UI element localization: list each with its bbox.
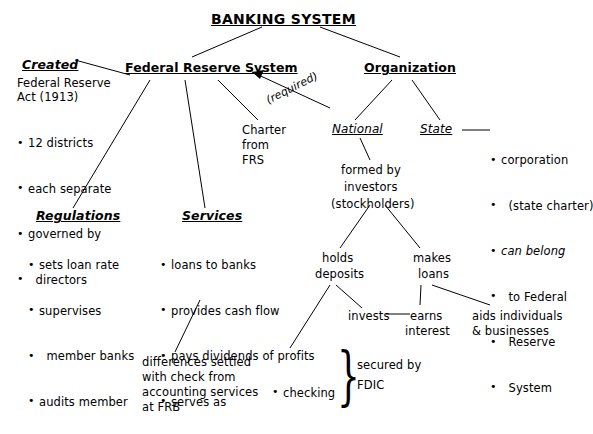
node-formed-line2: investors (344, 180, 398, 195)
node-makes-line2: loans (418, 267, 449, 282)
node-federal-reserve-system: Federal Reserve System (125, 60, 298, 77)
node-formed-line3: (stockholders) (331, 197, 415, 212)
node-national: National (332, 122, 383, 138)
list-item: provides cash flow (160, 304, 315, 319)
node-created-header: Created (22, 57, 78, 74)
list-item: audits member (28, 395, 134, 410)
node-holds-line2: deposits (315, 267, 364, 282)
diagram-canvas: BANKING SYSTEM Federal Reserve System Or… (0, 0, 593, 434)
node-created-line1: Federal Reserve (17, 76, 111, 91)
list-regulations: sets loan rate supervises member banks a… (28, 228, 134, 434)
node-secured-line2: FDIC (357, 378, 384, 393)
curly-brace-icon: } (337, 345, 360, 408)
node-differences-line4: at FRB (142, 400, 180, 415)
node-aids-line2: & businesses (472, 324, 549, 339)
node-earns-line2: interest (405, 324, 450, 339)
node-charter-line2: from (242, 138, 269, 153)
list-item: supervises (28, 304, 134, 319)
node-charter-line1: Charter (242, 123, 286, 138)
list-state: corporation (state charter) can belong t… (490, 123, 593, 426)
node-state: State (420, 122, 452, 138)
node-differences-line2: with check from (142, 370, 236, 385)
list-item-cont: to Federal (490, 290, 593, 305)
node-aids-line1: aids individuals (472, 309, 563, 324)
node-differences-line1: differences settled (142, 355, 251, 370)
list-item: checking (272, 385, 335, 402)
list-item: loans to banks (160, 258, 315, 273)
node-invests: invests (348, 309, 390, 324)
node-regulations-header: Regulations (36, 208, 120, 225)
list-item: sets loan rate (28, 258, 134, 273)
list-item: can belong (490, 244, 593, 259)
node-secured-line1: secured by (357, 358, 421, 373)
list-item: each separate (17, 182, 111, 197)
node-created-line2: Act (1913) (17, 90, 78, 105)
diagram-title: BANKING SYSTEM (211, 10, 356, 28)
node-charter-line3: FRS (242, 153, 264, 168)
node-differences-line3: accounting services (142, 385, 258, 400)
node-organization: Organization (364, 60, 456, 77)
node-earns-line1: earns (410, 309, 442, 324)
list-item: corporation (490, 153, 593, 168)
node-makes-line1: makes (413, 251, 451, 266)
list-deposit-types: checking savings trusts (272, 350, 335, 434)
list-item-cont: (state charter) (490, 199, 593, 214)
list-item: 12 districts (17, 136, 111, 151)
list-item-cont: System (490, 381, 593, 396)
list-item-cont: member banks (28, 349, 134, 364)
node-formed-line1: formed by (341, 163, 401, 178)
node-holds-line1: holds (322, 251, 353, 266)
node-services-header: Services (182, 208, 242, 225)
